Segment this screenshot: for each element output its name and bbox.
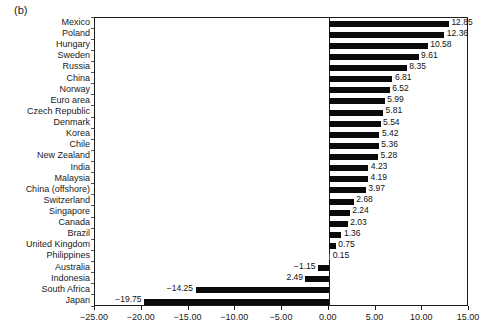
- x-axis-tick: [94, 306, 95, 310]
- bar-row: 2.49: [95, 274, 467, 285]
- bar: [329, 54, 419, 60]
- bar-row: 2.68: [95, 196, 467, 207]
- bar: [329, 221, 348, 227]
- x-axis: −25.00−20.00−15.00−10.00−5.000.005.0010.…: [0, 306, 487, 335]
- bar-row: 2.03: [95, 218, 467, 229]
- y-axis-label-australia: Australia: [0, 262, 90, 273]
- bar-value-label: 2.03: [350, 217, 367, 229]
- y-axis-category-labels: MexicoPolandHungarySwedenRussiaChinaNorw…: [0, 17, 90, 306]
- bar: [329, 87, 390, 93]
- x-axis-tick-label: −20.00: [127, 311, 155, 323]
- x-axis-tick-label: −5.00: [270, 311, 293, 323]
- bar-row: −1.15: [95, 263, 467, 274]
- y-axis-label-norway: Norway: [0, 84, 90, 95]
- bar: [196, 287, 329, 293]
- y-axis-label-euro-area: Euro area: [0, 95, 90, 106]
- bar-value-label: 0.15: [333, 250, 350, 262]
- y-axis-label-new-zealand: New Zealand: [0, 150, 90, 161]
- y-axis-label-south-africa: South Africa: [0, 284, 90, 295]
- bar-row: 12.85: [95, 18, 467, 29]
- bar-row: 6.52: [95, 85, 467, 96]
- bar-value-label: 12.85: [451, 17, 472, 29]
- bar: [329, 76, 393, 82]
- y-axis-label-canada: Canada: [0, 217, 90, 228]
- bar-value-label: 2.24: [352, 205, 369, 217]
- bar-row: 0.75: [95, 240, 467, 251]
- x-axis-tick: [375, 306, 376, 310]
- y-axis-label-switzerland: Switzerland: [0, 195, 90, 206]
- bar-value-label: 2.49: [286, 272, 303, 284]
- x-axis-tick-label: 10.00: [410, 311, 433, 323]
- bar: [329, 165, 369, 171]
- x-axis-tick: [188, 306, 189, 310]
- x-axis-tick-label: −15.00: [174, 311, 202, 323]
- bar-value-label: 1.36: [344, 228, 361, 240]
- y-axis-label-united-kingdom: United Kingdom: [0, 239, 90, 250]
- plot-area: 12.8512.3610.589.618.356.816.525.995.815…: [94, 17, 468, 306]
- bar-row: 2.24: [95, 207, 467, 218]
- bar-value-label: 5.54: [383, 117, 400, 129]
- bar: [329, 232, 342, 238]
- bar: [144, 299, 329, 305]
- bar: [305, 276, 328, 282]
- y-axis-label-philippines: Philippines: [0, 250, 90, 261]
- x-axis-tick: [328, 306, 329, 310]
- bar-value-label: 6.52: [392, 83, 409, 95]
- y-axis-label-poland: Poland: [0, 28, 90, 39]
- bar: [318, 265, 329, 271]
- x-axis-tick: [141, 306, 142, 310]
- bar: [329, 143, 379, 149]
- bar-value-label: 0.75: [338, 239, 355, 251]
- bar-row: 12.36: [95, 29, 467, 40]
- bar-row: 0.15: [95, 251, 467, 262]
- bar-value-label: 5.42: [382, 128, 399, 140]
- y-axis-label-indonesia: Indonesia: [0, 273, 90, 284]
- y-axis-label-sweden: Sweden: [0, 50, 90, 61]
- bar-row: 5.81: [95, 107, 467, 118]
- bar-row: 6.81: [95, 74, 467, 85]
- y-axis-label-mexico: Mexico: [0, 17, 90, 28]
- bar: [329, 21, 449, 27]
- x-axis-tick-label: −10.00: [220, 311, 248, 323]
- y-axis-label-korea: Korea: [0, 128, 90, 139]
- x-axis-tick: [421, 306, 422, 310]
- bar-row: 5.42: [95, 129, 467, 140]
- y-axis-label-brazil: Brazil: [0, 228, 90, 239]
- y-axis-label-singapore: Singapore: [0, 206, 90, 217]
- bar-value-label: 4.23: [371, 161, 388, 173]
- y-axis-label-russia: Russia: [0, 61, 90, 72]
- bar-row: 4.19: [95, 174, 467, 185]
- bar: [329, 132, 380, 138]
- bar-value-label: 3.97: [368, 183, 385, 195]
- x-axis-tick: [468, 306, 469, 310]
- bar-value-label: −14.25: [167, 283, 193, 295]
- bar-value-label: 5.81: [386, 105, 403, 117]
- bar-row: 5.54: [95, 118, 467, 129]
- y-axis-label-czech-republic: Czech Republic: [0, 106, 90, 117]
- bar-row: 5.99: [95, 96, 467, 107]
- panel-letter-label: (b): [14, 4, 27, 17]
- bar-value-label: 8.35: [409, 61, 426, 73]
- y-axis-label-denmark: Denmark: [0, 117, 90, 128]
- y-axis-label-malaysia: Malaysia: [0, 173, 90, 184]
- bar: [329, 176, 368, 182]
- x-axis-tick-label: 15.00: [457, 311, 480, 323]
- bar: [329, 254, 330, 260]
- x-axis-tick-label: 0.00: [319, 311, 337, 323]
- bar-row: 1.36: [95, 229, 467, 240]
- bar: [329, 110, 383, 116]
- bar-value-label: 2.68: [356, 194, 373, 206]
- bar-row: 3.97: [95, 185, 467, 196]
- bar-value-label: 10.58: [430, 39, 451, 51]
- x-axis-tick-label: 5.00: [366, 311, 384, 323]
- bar: [329, 121, 381, 127]
- y-axis-label-hungary: Hungary: [0, 39, 90, 50]
- bar-value-label: 12.36: [447, 28, 468, 40]
- y-axis-label-japan: Japan: [0, 295, 90, 306]
- bar: [329, 210, 350, 216]
- x-axis-tick: [281, 306, 282, 310]
- bar-value-label: 6.81: [395, 72, 412, 84]
- bar: [329, 243, 336, 249]
- bar: [329, 43, 428, 49]
- bar: [329, 65, 407, 71]
